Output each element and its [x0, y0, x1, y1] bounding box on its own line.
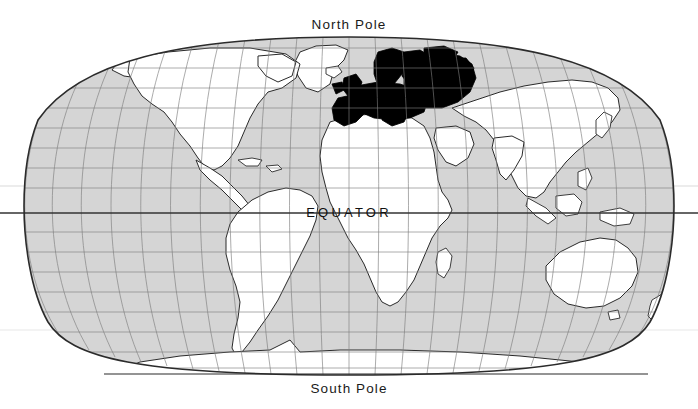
north-pole-label: North Pole — [0, 17, 698, 32]
land-tasmania — [608, 310, 620, 320]
south-pole-label: South Pole — [0, 381, 698, 396]
equator-label: EQUATOR — [0, 205, 698, 220]
world-map-figure: North Pole EQUATOR South Pole — [0, 0, 698, 409]
